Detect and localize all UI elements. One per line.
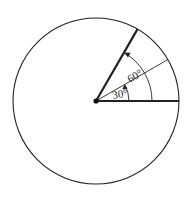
label-30-degrees: 30° (111, 86, 128, 100)
arrowhead-60-icon (124, 53, 131, 58)
circle-angle-diagram: 30° 60° (0, 0, 186, 197)
center-point (93, 98, 98, 103)
label-60-degrees: 60° (125, 67, 144, 85)
